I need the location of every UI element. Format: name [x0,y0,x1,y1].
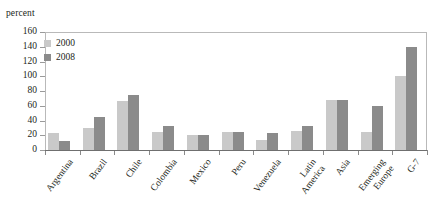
bar-group [358,32,393,150]
x-axis-label: Peru [230,157,249,177]
x-axis-label: LatinAmerica [290,157,326,196]
legend-item-2008: 2008 [44,51,104,63]
bar [187,135,198,150]
legend-item-2000: 2000 [44,37,104,49]
x-label-line: Argentina [44,157,75,194]
y-tick-label: 100 [7,69,37,81]
bar [233,132,244,150]
bar [94,117,105,150]
bar [395,76,406,150]
bar [222,132,233,150]
x-axis-baseline [45,150,427,151]
y-tick-label: 60 [7,99,37,111]
x-label-line: Peru [230,157,249,177]
bar [163,126,174,150]
y-tick-label: 120 [7,55,37,67]
y-tick-label: 140 [7,40,37,52]
bar [48,133,59,150]
y-tick-label: 40 [7,114,37,126]
bar [117,101,128,150]
bar-chart: percent 020406080100120140160 ArgentinaB… [0,0,430,220]
bar-group [392,32,427,150]
x-axis-label: G-7 [405,157,422,175]
bar [302,126,313,150]
bar [83,128,94,150]
x-label-line: Chile [124,157,145,180]
x-axis-label: Brazil [87,157,109,182]
bar [361,132,372,150]
legend: 2000 2008 [44,37,104,65]
bar-group [219,32,254,150]
x-label-line: Asia [334,157,353,177]
bar [256,140,267,150]
x-axis-label: Colombia [148,157,179,193]
x-axis-label: Argentina [44,157,75,194]
bar-group [184,32,219,150]
bar [152,132,163,150]
bar [267,133,278,150]
bar [198,135,209,150]
legend-label-2008: 2008 [56,52,75,63]
x-axis-tick [427,150,428,155]
y-tick-label: 160 [7,25,37,37]
bar [406,47,417,150]
legend-swatch-icon-2000 [44,40,51,47]
x-axis-label: Asia [334,157,353,177]
bar-group [149,32,184,150]
x-axis-labels: ArgentinaBrazilChileColombiaMexicoPeruVe… [45,157,427,219]
bar [337,100,348,150]
x-label-line: Venezuela [251,157,283,194]
bar [59,141,70,150]
bar [326,100,337,150]
bar-group [114,32,149,150]
y-tick-label: 0 [7,143,37,155]
x-label-line: Mexico [188,157,214,187]
x-axis-label: Venezuela [251,157,283,194]
x-axis-label: Chile [124,157,145,180]
y-tick-label: 20 [7,128,37,140]
bar-group [288,32,323,150]
x-label-line: G-7 [405,157,422,175]
bar [291,131,302,150]
bar [372,106,383,150]
legend-label-2000: 2000 [56,38,75,49]
bar-group [323,32,358,150]
y-axis-unit-caption: percent [6,8,35,18]
y-tick-label: 80 [7,84,37,96]
x-axis-label: Mexico [188,157,214,187]
bar [128,95,139,150]
x-axis-label: EmergingEurope [357,157,396,199]
bar-group [253,32,288,150]
legend-swatch-icon-2008 [44,54,51,61]
x-label-line: Brazil [87,157,109,182]
x-label-line: Colombia [148,157,179,193]
